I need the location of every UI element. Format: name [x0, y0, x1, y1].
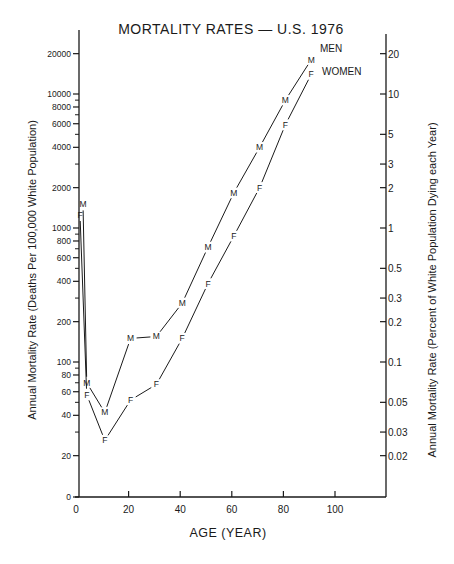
- marker-m: M: [79, 199, 86, 209]
- right-tick-label: 20: [388, 49, 400, 60]
- marker-f: F: [77, 210, 82, 220]
- x-axis-label: AGE (YEAR): [189, 526, 266, 540]
- left-tick-label: 8000: [52, 102, 71, 112]
- x-tick-label: 100: [327, 504, 344, 515]
- right-tick-label: 0.05: [388, 397, 408, 408]
- marker-f: F: [231, 231, 236, 241]
- left-tick-label: 40: [62, 410, 72, 420]
- right-tick-label: 1: [388, 223, 394, 234]
- right-tick-label: 10: [388, 89, 400, 100]
- right-tick-label: 0.03: [388, 427, 408, 438]
- x-tick-label: 80: [278, 504, 290, 515]
- left-tick-label: 800: [57, 236, 71, 246]
- marker-m: M: [230, 188, 237, 198]
- marker-f: F: [309, 69, 314, 79]
- left-tick-label: 1000: [52, 223, 71, 233]
- marker-m: M: [101, 407, 108, 417]
- marker-f: F: [205, 279, 210, 289]
- right-y-axis: 201053210.50.30.20.10.050.030.02: [380, 34, 408, 497]
- legend-men: MEN: [320, 43, 342, 54]
- left-tick-label: 60: [62, 387, 72, 397]
- marker-f: F: [128, 395, 133, 405]
- mortality-chart: MORTALITY RATES — U.S. 1976 204060801002…: [0, 0, 454, 564]
- marker-m: M: [308, 55, 315, 65]
- left-tick-label: 4000: [52, 142, 71, 152]
- chart-title: MORTALITY RATES — U.S. 1976: [118, 21, 344, 37]
- marker-f: F: [102, 435, 107, 445]
- marker-f: F: [84, 390, 89, 400]
- left-tick-label: 200: [57, 317, 71, 327]
- left-tick-label: 2000: [52, 183, 71, 193]
- marker-f: F: [257, 183, 262, 193]
- right-tick-label: 0.3: [388, 293, 402, 304]
- right-tick-label: 3: [388, 159, 394, 170]
- right-tick-label: 0.2: [388, 317, 402, 328]
- legend-women: WOMEN: [322, 66, 361, 77]
- left-y-axis-label: Annual Mortality Rate (Deaths Per 100,00…: [26, 120, 38, 420]
- marker-f: F: [283, 120, 288, 130]
- left-tick-label: 20: [62, 451, 72, 461]
- right-y-axis-label: Annual Mortality Rate (Percent of White …: [426, 122, 438, 457]
- marker-f: F: [154, 379, 159, 389]
- marker-m: M: [179, 298, 186, 308]
- svg-text:0: 0: [66, 492, 71, 502]
- marker-m: M: [282, 95, 289, 105]
- x-tick-label: 60: [226, 504, 238, 515]
- right-tick-label: 0.5: [388, 263, 402, 274]
- left-tick-label: 80: [62, 370, 72, 380]
- right-tick-label: 2: [388, 183, 394, 194]
- marker-m: M: [204, 242, 211, 252]
- marker-m: M: [256, 142, 263, 152]
- left-tick-label: 10000: [47, 89, 71, 99]
- marker-f: F: [180, 333, 185, 343]
- left-tick-label: 20000: [47, 49, 71, 59]
- left-tick-label: 400: [57, 276, 71, 286]
- left-tick-label: 100: [57, 357, 71, 367]
- marker-m: M: [127, 333, 134, 343]
- left-y-axis: 2040608010020040060080010002000400060008…: [47, 30, 79, 502]
- x-tick-label: 20: [123, 504, 135, 515]
- x-axis: 020406080100: [73, 491, 386, 515]
- series-men: MMMMMMMMMMM: [79, 55, 314, 418]
- right-tick-label: 0.1: [388, 357, 402, 368]
- x-tick-label: 40: [175, 504, 187, 515]
- right-tick-label: 0.02: [388, 451, 408, 462]
- x-tick-label: 0: [73, 504, 79, 515]
- right-tick-label: 5: [388, 129, 394, 140]
- left-tick-label: 6000: [52, 119, 71, 129]
- marker-m: M: [153, 331, 160, 341]
- series-layer: MMMMMMMMMMMFFFFFFFFFFF: [77, 55, 314, 446]
- left-tick-label: 600: [57, 253, 71, 263]
